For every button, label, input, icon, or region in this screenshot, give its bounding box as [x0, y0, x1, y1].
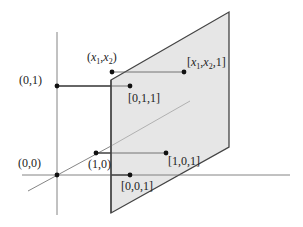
label-x1x2-1: [x1,x2,1] [187, 55, 226, 71]
label-0-1: (0,1) [19, 73, 42, 87]
point-0-0-1 [128, 173, 133, 178]
homogeneous-coordinates-diagram: (x1,x2) [x1,x2,1] (0,1) [0,1,1] (0,0) (1… [0, 0, 303, 227]
point-1-0 [94, 151, 99, 156]
point-x1x2-1 [182, 70, 187, 75]
label-x1x2: (x1,x2) [87, 50, 117, 66]
point-0-1 [55, 84, 60, 89]
label-0-0-1: [0,0,1] [121, 179, 153, 193]
point-0-1-1 [128, 84, 133, 89]
point-0-0 [55, 173, 60, 178]
label-0-1-1: [0,1,1] [128, 91, 160, 105]
label-1-0-1: [1,0,1] [168, 154, 200, 168]
point-x1x2 [110, 70, 115, 75]
label-1-0: (1,0) [88, 157, 111, 171]
label-0-0: (0,0) [18, 156, 41, 170]
